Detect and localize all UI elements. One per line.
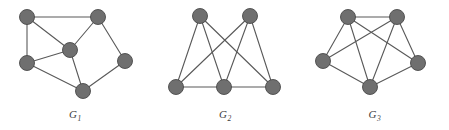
graph-edge [27, 63, 83, 91]
graph-node-bottom-mid [217, 80, 232, 95]
graph-node-top-left [193, 9, 208, 24]
graph-label-letter: G [69, 108, 77, 120]
graph-node-top-left [20, 10, 35, 25]
node-group [169, 9, 281, 95]
graph-label-g2: G2 [150, 108, 300, 120]
graph-node-top-right [390, 10, 405, 25]
graph-edge [370, 63, 418, 87]
graph-label-letter: G [219, 108, 227, 120]
graph-node-center [63, 43, 78, 58]
graph-drawing-g1 [0, 0, 150, 105]
graph-panel-g3: G3 [300, 0, 449, 130]
graph-figure: G1G2G3 [0, 0, 449, 130]
edge-group [176, 16, 273, 87]
graph-label-letter: G [368, 108, 376, 120]
edge-group [323, 17, 418, 87]
graph-edge [176, 16, 250, 87]
graph-node-bottom [363, 80, 378, 95]
graph-node-top-right [91, 10, 106, 25]
graph-drawing-g2 [150, 0, 300, 105]
graph-node-bottom [76, 84, 91, 99]
graph-drawing-g3 [300, 0, 449, 105]
graph-node-bottom-left [169, 80, 184, 95]
graph-label-subscript: 3 [377, 114, 381, 123]
graph-node-right [118, 54, 133, 69]
graph-edge [27, 17, 70, 50]
graph-label-g1: G1 [0, 108, 150, 120]
node-group [20, 10, 133, 99]
graph-node-mid-left [316, 54, 331, 69]
graph-label-g3: G3 [300, 108, 449, 120]
graph-edge [200, 16, 224, 87]
graph-label-subscript: 1 [77, 114, 81, 123]
graph-node-bottom-right [266, 80, 281, 95]
graph-node-mid-left [20, 56, 35, 71]
graph-edge [224, 16, 250, 87]
node-group [316, 10, 426, 95]
graph-node-mid-right [411, 56, 426, 71]
graph-node-top-right [243, 9, 258, 24]
graph-panel-g1: G1 [0, 0, 150, 130]
graph-edge [370, 17, 397, 87]
graph-edge [176, 16, 200, 87]
graph-label-subscript: 2 [227, 114, 231, 123]
graph-node-top-left [341, 10, 356, 25]
graph-panel-g2: G2 [150, 0, 300, 130]
